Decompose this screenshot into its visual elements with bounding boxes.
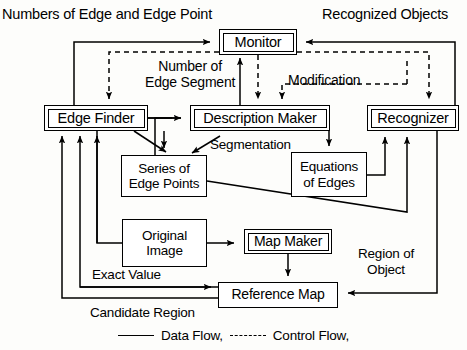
label-region-of-object: Region of Object <box>358 246 414 277</box>
legend-control-flow-label: Control Flow, <box>273 328 349 343</box>
node-original-image[interactable]: Original Image <box>122 219 207 267</box>
label-segmentation: Segmentation <box>210 137 291 153</box>
node-description-maker-label: Description Maker <box>203 110 316 126</box>
system-block-diagram: Monitor Edge Finder Description Maker Re… <box>0 0 467 350</box>
legend-dashed-line-icon <box>230 335 266 336</box>
node-reference-map-label: Reference Map <box>231 287 324 303</box>
node-monitor-label: Monitor <box>235 34 282 50</box>
edge-equations-to-recognizer <box>367 137 385 175</box>
node-equations-of-edges-label: Equations of Edges <box>300 159 358 189</box>
diagram-legend: Data Flow, Control Flow, <box>0 328 467 343</box>
node-series-of-edge-points[interactable]: Series of Edge Points <box>121 155 207 197</box>
node-recognizer-label: Recognizer <box>377 110 448 126</box>
node-map-maker[interactable]: Map Maker <box>244 229 332 254</box>
node-description-maker[interactable]: Description Maker <box>190 105 330 131</box>
edge-series-to-descriptionmaker <box>155 118 181 160</box>
edge-edgefinder-to-series <box>134 131 166 152</box>
node-map-maker-label: Map Maker <box>254 234 322 250</box>
label-modification: Modification <box>288 72 360 88</box>
label-recognized-objects: Recognized Objects <box>322 6 448 23</box>
node-reference-map[interactable]: Reference Map <box>218 282 338 308</box>
label-candidate-region: Candidate Region <box>90 305 195 321</box>
node-edge-finder-label: Edge Finder <box>58 110 135 126</box>
node-equations-of-edges[interactable]: Equations of Edges <box>291 152 367 197</box>
node-recognizer[interactable]: Recognizer <box>367 105 459 131</box>
label-number-of-edge-segment: Number of Edge Segment <box>145 58 235 90</box>
legend-data-flow-label: Data Flow, <box>161 328 223 343</box>
node-edge-finder[interactable]: Edge Finder <box>44 105 148 131</box>
node-series-of-edge-points-label: Series of Edge Points <box>129 161 200 191</box>
label-numbers-of-edge-and-edge-point: Numbers of Edge and Edge Point <box>2 6 212 23</box>
node-original-image-label: Original Image <box>142 228 187 258</box>
node-monitor[interactable]: Monitor <box>219 29 297 55</box>
label-exact-value: Exact Value <box>92 267 161 283</box>
legend-solid-line-icon <box>118 335 154 336</box>
